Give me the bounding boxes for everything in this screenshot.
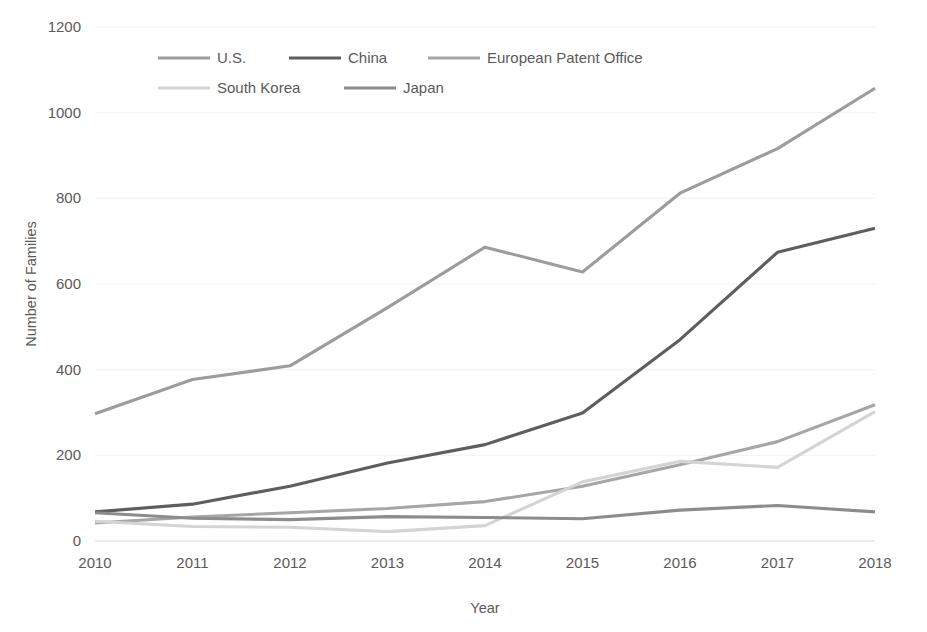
legend-label-south-korea: South Korea bbox=[217, 79, 301, 96]
legend-label-china: China bbox=[348, 49, 388, 66]
x-axis-tick-label: 2010 bbox=[78, 554, 111, 571]
y-axis-tick-label: 1200 bbox=[48, 18, 81, 35]
x-axis-tick-label: 2012 bbox=[273, 554, 306, 571]
y-axis-tick-label: 200 bbox=[56, 446, 81, 463]
chart-background bbox=[0, 0, 927, 632]
legend-label-u-s: U.S. bbox=[217, 49, 246, 66]
y-axis-tick-label: 1000 bbox=[48, 104, 81, 121]
y-axis-tick-label: 800 bbox=[56, 189, 81, 206]
legend-label-european-patent-office: European Patent Office bbox=[487, 49, 643, 66]
x-axis-tick-label: 2018 bbox=[858, 554, 891, 571]
x-axis-tick-label: 2013 bbox=[371, 554, 404, 571]
y-axis-tick-label: 0 bbox=[73, 532, 81, 549]
x-axis-tick-label: 2014 bbox=[468, 554, 501, 571]
x-axis-tick-label: 2017 bbox=[761, 554, 794, 571]
chart-canvas: 020040060080010001200 201020112012201320… bbox=[0, 0, 927, 632]
line-chart: 020040060080010001200 201020112012201320… bbox=[0, 0, 927, 632]
x-axis-tick-label: 2011 bbox=[176, 554, 208, 571]
y-axis-tick-label: 600 bbox=[56, 275, 81, 292]
x-axis-tick-labels: 201020112012201320142015201620172018 bbox=[78, 554, 891, 571]
x-axis-title: Year bbox=[470, 600, 499, 616]
legend-label-japan: Japan bbox=[403, 79, 444, 96]
x-axis-tick-label: 2016 bbox=[663, 554, 696, 571]
x-axis-tick-label: 2015 bbox=[566, 554, 599, 571]
y-axis-title: Number of Families bbox=[23, 221, 39, 347]
y-axis-tick-label: 400 bbox=[56, 361, 81, 378]
